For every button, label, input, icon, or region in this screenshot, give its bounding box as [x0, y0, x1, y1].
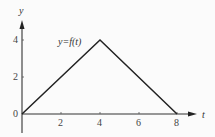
x-axis-label: t [202, 109, 205, 120]
curve-label: y=f(t) [57, 36, 82, 48]
line-chart: y t y=f(t) 0 2 4 2 4 6 8 [0, 0, 215, 137]
data-line-f-t [22, 40, 177, 114]
x-tick-label-4: 4 [97, 117, 102, 128]
y-tick-label-2: 2 [13, 71, 18, 82]
y-tick-label-4: 4 [13, 34, 18, 45]
x-tick-label-8: 8 [174, 117, 179, 128]
x-axis-arrow-icon [188, 112, 197, 117]
origin-label: 0 [13, 108, 18, 119]
x-tick-label-2: 2 [58, 117, 63, 128]
y-axis-arrow-icon [20, 20, 25, 29]
y-axis-label: y [18, 5, 24, 16]
x-tick-label-6: 6 [136, 117, 141, 128]
